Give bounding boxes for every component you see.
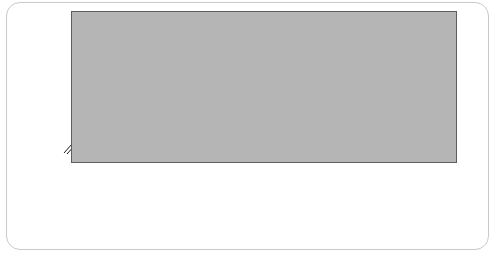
legend-swatch-gnp <box>69 211 99 216</box>
chart-canvas <box>72 12 456 162</box>
legend-item-wellbeing <box>69 222 107 239</box>
chart-legend <box>69 205 107 239</box>
y-axis-tick-labels <box>29 3 67 163</box>
chart-figure <box>6 2 489 250</box>
plot-area <box>71 11 457 163</box>
legend-swatch-wellbeing <box>69 228 99 233</box>
x-axis-tick-labels <box>71 165 457 199</box>
legend-item-gnp <box>69 205 107 222</box>
